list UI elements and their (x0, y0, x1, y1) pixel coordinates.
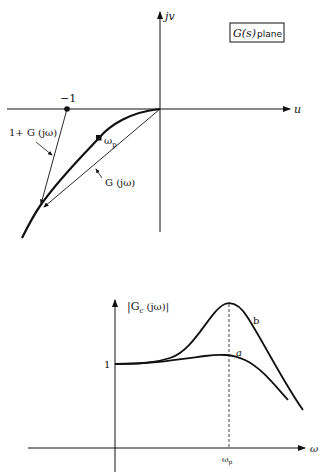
curve-b (115, 303, 303, 410)
point-minus-one-label: −1 (60, 92, 76, 105)
magnitude-plot: ω |Gc (jω)| 1 ωp b a (28, 300, 318, 472)
x-tick-wp: ωp (222, 455, 233, 466)
curve-a (115, 355, 288, 400)
point-wp (96, 135, 102, 141)
curve-a-label: a (236, 347, 242, 358)
label-g: G (jω) (105, 177, 135, 188)
pointer-one-plus-g (36, 142, 52, 155)
pointer-g (96, 169, 102, 178)
plane-label-box: G(s) plane (230, 23, 284, 42)
y-tick-one: 1 (104, 359, 110, 370)
x-axis-label: ω (310, 443, 318, 454)
vector-g (44, 109, 160, 207)
plane-label-math: G(s) (233, 27, 256, 40)
label-one-plus-g: 1+ G (jω) (9, 127, 57, 138)
imag-axis-label: jv (162, 10, 175, 23)
plane-label-word: plane (257, 29, 282, 39)
curve-b-label: b (253, 315, 259, 326)
vector-one-plus-g (41, 109, 67, 204)
diagram-canvas: u jv G(s) plane −1 ωp 1+ G (jω) G (jω) ω… (0, 0, 325, 472)
y-axis-label: |Gc (jω)| (127, 300, 169, 315)
real-axis-label: u (294, 103, 301, 116)
nyquist-plot: u jv G(s) plane −1 ωp 1+ G (jω) G (jω) (7, 10, 301, 238)
